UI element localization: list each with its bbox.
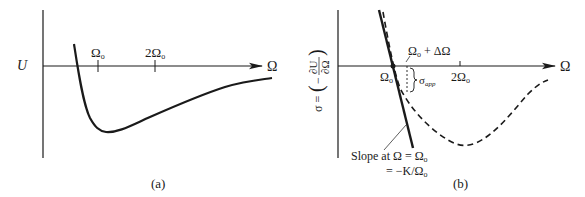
panel-b-origin-tick-label: Ωo: [380, 70, 393, 85]
panel-b: Ω Ωo 2Ωo Ωo + ΔΩ σapp σ = ( − ∂U ∂Ω ) Sl…: [305, 10, 570, 191]
panel-a: U Ω Ωo 2Ωo (a): [17, 10, 277, 191]
svg-text:): ): [305, 49, 328, 56]
panel-b-slope-leader: [384, 125, 406, 150]
panel-b-x-label: Ω: [560, 59, 570, 74]
panel-b-caption: (b): [453, 176, 468, 191]
svg-text:σ =: σ =: [311, 96, 325, 112]
panel-b-intersection-dot: [391, 64, 396, 69]
svg-text:(: (: [305, 85, 328, 92]
panel-b-slope-note-line2: = −K/Ωo: [386, 164, 427, 179]
panel-a-caption: (a): [151, 176, 165, 191]
panel-b-sigma-app-label: σapp: [419, 74, 436, 88]
panel-b-y-label: σ = ( − ∂U ∂Ω ): [305, 49, 331, 112]
svg-text:∂U: ∂U: [307, 61, 319, 74]
panel-a-tick-label-2omega0: 2Ωo: [145, 45, 165, 61]
panel-a-y-label: U: [17, 58, 28, 73]
panel-b-slope-note-line1: Slope at Ω = Ωo: [351, 149, 428, 164]
panel-b-sigma-app-brace: [410, 68, 417, 92]
svg-text:∂Ω: ∂Ω: [319, 60, 331, 74]
panel-a-tick-label-omega0: Ωo: [91, 45, 105, 61]
figure-canvas: U Ω Ωo 2Ωo (a) Ω Ωo 2Ωo: [0, 0, 585, 197]
panel-a-x-label: Ω: [267, 59, 277, 74]
panel-b-2omega0-label: 2Ωo: [451, 70, 470, 85]
panel-b-delta-omega-label: Ωo + ΔΩ: [408, 44, 450, 59]
svg-text:−: −: [311, 77, 325, 84]
